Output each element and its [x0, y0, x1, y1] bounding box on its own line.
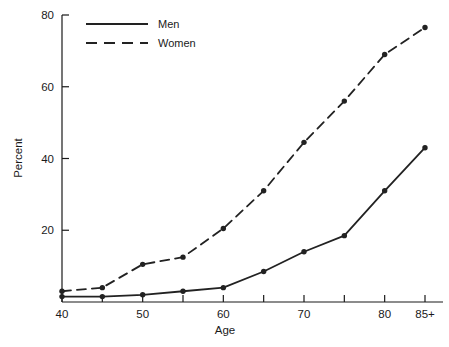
series-line-men	[62, 148, 425, 297]
data-point-women	[422, 25, 427, 30]
x-tick-label: 60	[217, 308, 230, 320]
data-point-women	[221, 226, 226, 231]
data-point-women	[261, 188, 266, 193]
chart-legend: MenWomen	[86, 18, 196, 49]
y-axis-title: Percent	[12, 137, 24, 177]
line-chart: 20406080 405060708085+ Age Percent MenWo…	[0, 0, 449, 347]
y-tick-label: 20	[41, 224, 54, 236]
data-point-women	[140, 262, 145, 267]
x-axis-title: Age	[215, 324, 235, 336]
data-point-men	[59, 294, 64, 299]
x-tick-label: 70	[298, 308, 311, 320]
axis-lines	[62, 15, 443, 302]
x-tick-label: 40	[56, 308, 69, 320]
y-axis-ticks: 20406080	[41, 9, 69, 236]
data-point-men	[382, 188, 387, 193]
data-point-women	[301, 140, 306, 145]
series-line-women	[62, 28, 425, 292]
data-point-women	[59, 289, 64, 294]
data-point-men	[422, 145, 427, 150]
data-point-men	[140, 292, 145, 297]
x-axis-ticks: 405060708085+	[56, 295, 435, 320]
data-point-men	[100, 294, 105, 299]
y-tick-label: 40	[41, 153, 54, 165]
x-tick-label: 80	[378, 308, 391, 320]
y-tick-label: 60	[41, 81, 54, 93]
data-point-men	[261, 269, 266, 274]
data-point-women	[342, 98, 347, 103]
chart-page: 20406080 405060708085+ Age Percent MenWo…	[0, 0, 449, 347]
data-point-women	[180, 254, 185, 259]
data-point-men	[221, 285, 226, 290]
x-tick-label: 50	[136, 308, 149, 320]
x-tick-label: 85+	[415, 308, 435, 320]
data-point-women	[100, 285, 105, 290]
data-point-men	[342, 233, 347, 238]
data-point-women	[382, 52, 387, 57]
legend-label-men: Men	[158, 18, 179, 30]
y-tick-label: 80	[41, 9, 54, 21]
legend-label-women: Women	[158, 37, 196, 49]
data-series-layer	[59, 25, 427, 299]
data-point-men	[180, 289, 185, 294]
data-point-men	[301, 249, 306, 254]
